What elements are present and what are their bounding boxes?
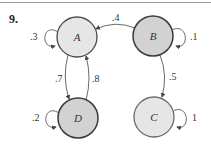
edge-b-to-c <box>160 55 165 97</box>
edge-label-a-d: .7 <box>55 73 63 84</box>
node-d: D <box>58 98 98 138</box>
self-loop-a <box>45 30 58 47</box>
node-a-label: A <box>73 31 81 43</box>
self-loop-c <box>173 110 186 128</box>
self-loop-b <box>172 29 185 47</box>
node-c: C <box>134 97 174 137</box>
edge-a-to-d <box>65 55 69 99</box>
node-b: B <box>133 16 173 56</box>
node-b-label: B <box>150 30 157 42</box>
edge-label-d-a: .8 <box>92 73 100 84</box>
edge-label-c-c: 1 <box>192 112 197 123</box>
markov-diagram: .4 .5 .7 .8 .3 .1 .2 1 A B D C <box>0 0 211 150</box>
node-d-label: D <box>73 112 82 124</box>
edge-label-b-c: .5 <box>169 71 177 82</box>
node-c-label: C <box>150 111 158 123</box>
edge-label-d-d: .2 <box>32 112 40 123</box>
edge-label-a-a: .3 <box>30 31 38 42</box>
edge-label-b-b: .1 <box>190 31 198 42</box>
edge-b-to-a <box>96 24 135 29</box>
node-a: A <box>57 17 97 57</box>
edge-label-b-a: .4 <box>112 12 120 23</box>
edge-d-to-a <box>86 56 89 100</box>
self-loop-d <box>46 111 59 128</box>
